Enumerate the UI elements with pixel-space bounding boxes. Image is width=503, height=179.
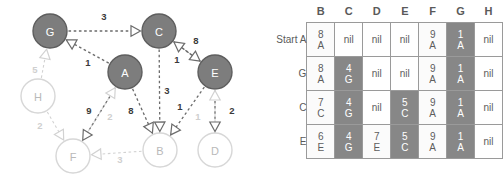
matrix-cell-g-r1: 1A (447, 23, 475, 57)
edge-weight-c-b: 3 (164, 85, 169, 96)
cell-distance: 9 (419, 97, 446, 108)
matrix-cell-f-r4: 9A (419, 125, 447, 159)
edge-weight-e-d: 2 (229, 105, 234, 116)
node-label-d: D (211, 145, 219, 157)
edge-weight-h-f: 2 (37, 120, 42, 131)
graph-node-d[interactable]: D (198, 133, 232, 167)
cell-distance: nil (335, 34, 362, 45)
cell-distance: 7 (307, 97, 334, 108)
cell-predecessor: E (363, 142, 390, 153)
graph-node-g[interactable]: G (33, 14, 67, 48)
cell-distance: 6 (307, 131, 334, 142)
cell-distance: 9 (419, 131, 446, 142)
matrix-cell-d-r3: nil (363, 91, 391, 125)
graph-node-h[interactable]: H (21, 79, 55, 113)
cell-predecessor: G (335, 74, 362, 85)
arrowhead-f-a (106, 88, 115, 99)
column-header-c: C (335, 0, 363, 23)
matrix-cell-e-r3: 5C (391, 91, 419, 125)
node-label-g: G (46, 26, 55, 38)
cell-distance: 4 (335, 63, 362, 74)
node-label-f: F (70, 151, 77, 163)
arrowhead-c-e (189, 51, 200, 61)
matrix-cell-g-r2: 1A (447, 57, 475, 91)
arrowhead-g-c (131, 26, 141, 36)
cell-distance: 8 (307, 29, 334, 40)
cell-predecessor: C (391, 142, 418, 153)
edge-weight-a-g: 1 (85, 57, 91, 68)
cell-predecessor: G (335, 108, 362, 119)
graph-panel: GCAEHFBD31813891252231 (0, 0, 260, 179)
cell-distance: nil (475, 68, 502, 79)
column-header-h: H (474, 0, 502, 23)
arrowhead-layer (40, 26, 220, 159)
graph-node-b[interactable]: B (143, 133, 177, 167)
edge-layer (41, 31, 215, 155)
matrix-cell-c-r2: 4G (335, 57, 363, 91)
matrix-cell-f-r3: 9A (419, 91, 447, 125)
matrix-cell-h-r2: nil (474, 57, 502, 91)
matrix-cell-h-r1: nil (474, 23, 502, 57)
edge-weight-d-e: 1 (195, 111, 201, 122)
cell-distance: 1 (447, 63, 474, 74)
node-label-c: C (155, 26, 163, 38)
matrix-cell-g-r4: 1A (447, 125, 475, 159)
row-header-c: C (262, 91, 307, 125)
cell-distance: 4 (335, 131, 362, 142)
cell-distance: 9 (419, 63, 446, 74)
cell-predecessor: A (307, 74, 334, 85)
node-label-b: B (156, 145, 163, 157)
cell-distance: nil (363, 68, 390, 79)
cell-distance: nil (391, 68, 418, 79)
arrowhead-a-f (83, 129, 92, 140)
cell-predecessor: A (419, 108, 446, 119)
cell-distance: 1 (447, 97, 474, 108)
node-label-a: A (121, 67, 129, 79)
edge-weight-h-g: 5 (32, 64, 38, 75)
column-header-b: B (307, 0, 335, 23)
matrix-cell-d-r1: nil (363, 23, 391, 57)
cell-distance: 8 (307, 63, 334, 74)
matrix-cell-d-r2: nil (363, 57, 391, 91)
column-header-g: G (447, 0, 475, 23)
cell-distance: nil (475, 136, 502, 147)
matrix-cell-f-r1: 9A (419, 23, 447, 57)
cell-predecessor: A (447, 142, 474, 153)
edge-weight-g-c: 3 (101, 11, 106, 22)
table-head: B C D E F G H (262, 0, 503, 23)
cell-distance: 1 (447, 29, 474, 40)
graph-node-c[interactable]: C (142, 14, 176, 48)
graph-node-a[interactable]: A (108, 55, 142, 89)
arrowhead-b-f (91, 149, 101, 159)
graph-node-e[interactable]: E (198, 55, 232, 89)
edge-weight-b-f: 3 (117, 154, 122, 165)
cell-predecessor: A (419, 40, 446, 51)
cell-distance: nil (475, 34, 502, 45)
matrix-cell-b-r3: 7C (307, 91, 335, 125)
row-header-start-a: Start A (262, 23, 307, 57)
column-header-d: D (363, 0, 391, 23)
cell-predecessor: A (447, 40, 474, 51)
matrix-cell-c-r3: 4G (335, 91, 363, 125)
table-corner-cell (262, 0, 307, 23)
graph-node-f[interactable]: F (56, 139, 90, 173)
matrix-cell-c-r1: nil (335, 23, 363, 57)
cell-predecessor: A (447, 74, 474, 85)
cell-distance: nil (363, 102, 390, 113)
cell-predecessor: A (447, 108, 474, 119)
cell-predecessor: A (419, 142, 446, 153)
arrowhead-e-b (171, 124, 181, 135)
row-header-e: E (262, 125, 307, 159)
arrowhead-h-g (40, 49, 50, 59)
arrowhead-e-c (174, 42, 185, 52)
edge-weight-a-f: 9 (86, 105, 91, 116)
matrix-cell-e-r2: nil (391, 57, 419, 91)
arrowhead-h-f (54, 129, 63, 140)
matrix-cell-e-r1: nil (391, 23, 419, 57)
matrix-cell-f-r2: 9A (419, 57, 447, 91)
arrowhead-a-b (144, 122, 153, 133)
distance-matrix-panel: B C D E F G H Start A8Anilnilnil9A1AnilG… (262, 0, 503, 179)
edge-weight-a-b: 8 (128, 105, 133, 116)
cell-distance: nil (363, 34, 390, 45)
column-header-e: E (391, 0, 419, 23)
